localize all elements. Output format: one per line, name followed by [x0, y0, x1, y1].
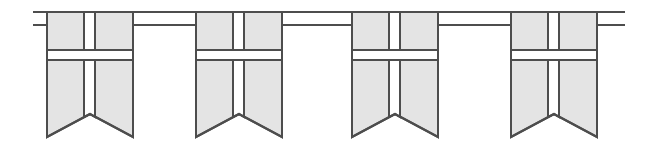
bunting-diagram [0, 0, 657, 146]
flag-3 [352, 12, 438, 137]
flag-3-cross-vertical [389, 12, 400, 117]
flag-1 [47, 12, 133, 137]
flag-2-cross-horizontal [196, 50, 282, 60]
flag-3-cross-horizontal [352, 50, 438, 60]
illustration-canvas [0, 0, 657, 146]
flag-4-cross-horizontal [511, 50, 597, 60]
flag-1-cross-horizontal [47, 50, 133, 60]
flag-2 [196, 12, 282, 137]
flag-4-cross-vertical [548, 12, 559, 117]
flag-2-cross-vertical [233, 12, 244, 117]
flag-1-cross-vertical [84, 12, 95, 117]
flag-4 [511, 12, 597, 137]
flag-group [47, 12, 597, 137]
